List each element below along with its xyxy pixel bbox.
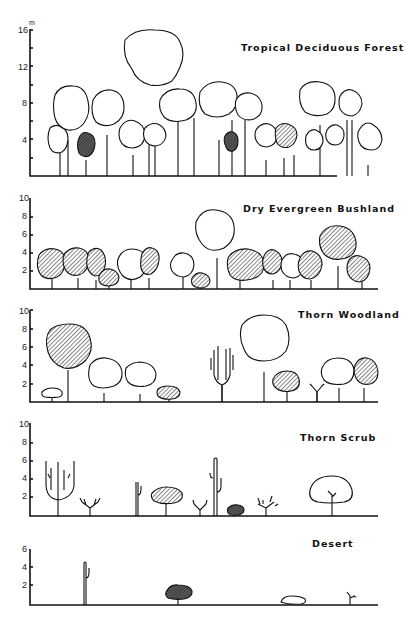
tick-label: 8 (22, 324, 27, 334)
tick-label: 8 (22, 437, 27, 447)
tick-label: 4 (22, 473, 27, 483)
tick-label: 2 (22, 491, 27, 501)
tree-crown (92, 90, 124, 126)
tree-crown (310, 476, 353, 503)
columnar-cactus (84, 562, 89, 605)
shrub-crown-evergreen (157, 386, 180, 399)
panel-dry-evergreen-bushland: 10 8 6 4 2 Dry Evergreen Bushland (19, 193, 395, 289)
shrub-crown-evergreen (192, 273, 211, 288)
tree-crown-evergreen (354, 358, 378, 385)
panel-title: Desert (312, 538, 354, 549)
shrub-crown (42, 388, 62, 398)
panel-thorn-scrub: 10 8 6 4 2 Thorn Scrub (19, 419, 378, 516)
unit-label: m (29, 19, 35, 26)
panel-title: Tropical Deciduous Forest (241, 42, 404, 53)
tick-label: 2 (22, 580, 27, 590)
shrub-crown-evergreen (166, 585, 192, 599)
shrub-crown-evergreen (320, 226, 357, 260)
tree-crown (339, 90, 362, 116)
tree-crown-evergreen (46, 324, 91, 368)
tree-crown (235, 93, 262, 120)
panel-desert: 6 4 2 Desert (22, 538, 378, 605)
tick-label: 10 (19, 193, 29, 203)
tree-crown (306, 130, 324, 150)
tree-crown-evergreen (275, 124, 297, 148)
tree-crown-evergreen (78, 133, 96, 157)
shrub-crown-evergreen (227, 249, 264, 280)
tree-crown (160, 89, 197, 122)
cactus-candelabra (211, 346, 233, 402)
shrub-crown-evergreen (99, 269, 119, 286)
shrub-crown-evergreen (151, 487, 182, 504)
tick-label: 8 (22, 211, 27, 221)
tick-label: 8 (22, 98, 27, 108)
panel-thorn-woodland: 10 8 6 4 2 Thorn Woodland (19, 306, 400, 402)
small-thorn-shrub (310, 384, 324, 402)
tick-label: 4 (22, 247, 27, 257)
tree-crown (300, 82, 336, 116)
tick-label: 6 (22, 229, 27, 239)
panel-title: Thorn Scrub (300, 432, 376, 443)
small-cactus (347, 592, 356, 605)
tree-crown (199, 82, 237, 117)
thorn-shrub (80, 498, 100, 516)
shrub-crown-evergreen (37, 249, 65, 279)
tick-label: 6 (22, 544, 27, 554)
cactus-candelabra (46, 461, 74, 516)
shrub-crown-evergreen (263, 250, 282, 274)
tree-crown-evergreen (273, 371, 300, 392)
shrub-crown-evergreen (347, 256, 370, 282)
tree-crown (125, 362, 156, 387)
tree-crown (144, 124, 167, 147)
tree-crown (321, 358, 354, 385)
columnar-cactus (136, 482, 141, 516)
tree-crown (124, 30, 183, 86)
tree-crown-evergreen (224, 132, 238, 151)
panel-title: Thorn Woodland (298, 309, 400, 320)
thorn-shrub (258, 496, 278, 516)
shrub-crown-evergreen (298, 251, 322, 279)
tick-label: 10 (19, 306, 29, 316)
tick-label: 6 (22, 342, 27, 352)
tick-label: 6 (22, 455, 27, 465)
tree-crown (89, 358, 122, 388)
tick-label: 16 (18, 25, 28, 35)
tree-crown (326, 125, 344, 145)
tree-crown (54, 86, 89, 130)
axis (30, 549, 378, 605)
vegetation-profile-diagram: m 16 12 8 4 Tropical Deciduous Forest (0, 0, 405, 630)
shrub-crown-evergreen (228, 505, 245, 515)
panel-title: Dry Evergreen Bushland (243, 203, 395, 214)
tick-label: 10 (19, 419, 29, 429)
shrub-crown (196, 210, 235, 251)
tick-label: 4 (22, 135, 27, 145)
tree-crown (240, 315, 289, 361)
low-shrub (281, 596, 306, 604)
shrub-crown-evergreen (63, 248, 89, 276)
tick-label: 4 (22, 360, 27, 370)
shrub-crown (171, 253, 195, 277)
columnar-cactus (210, 458, 221, 516)
tick-label: 4 (22, 562, 27, 572)
shrub-crown-evergreen (141, 248, 159, 275)
tick-label: 12 (18, 62, 28, 72)
thorn-shrub (193, 500, 207, 516)
panel-tropical-deciduous-forest: m 16 12 8 4 Tropical Deciduous Forest (18, 19, 404, 176)
tree-crown (119, 120, 145, 148)
tree-crown (358, 123, 382, 150)
tick-label: 2 (22, 265, 27, 275)
tick-label: 2 (22, 379, 27, 389)
tree-crown (255, 124, 277, 147)
